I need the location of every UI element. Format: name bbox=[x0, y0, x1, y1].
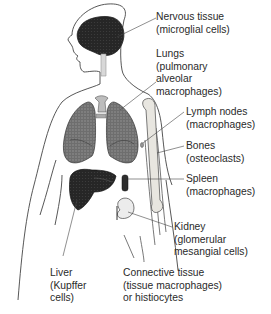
label-line: alveolar bbox=[156, 73, 222, 86]
label-line: Connective tissue bbox=[123, 267, 222, 280]
label-connective-tissue: Connective tissue (tissue macrophages) o… bbox=[123, 267, 222, 305]
label-line: Liver bbox=[50, 267, 86, 280]
right-lung bbox=[106, 102, 138, 163]
label-line: Nervous tissue bbox=[156, 11, 230, 24]
label-line: Lymph nodes bbox=[186, 106, 255, 119]
label-line: (osteoclasts) bbox=[186, 153, 244, 166]
left-arm-inner bbox=[40, 160, 56, 215]
label-line: or histiocytes bbox=[123, 292, 222, 305]
label-line: cells) bbox=[50, 292, 86, 305]
label-line: (macrophages) bbox=[186, 186, 255, 199]
label-bones: Bones (osteoclasts) bbox=[186, 140, 244, 165]
leader-liver bbox=[63, 200, 77, 256]
label-line: mesangial cells) bbox=[174, 246, 248, 259]
label-lungs: Lungs (pulmonary alveolar macrophages) bbox=[156, 48, 222, 98]
label-line: (tissue macrophages) bbox=[123, 280, 222, 293]
label-line: (Kupffer bbox=[50, 280, 86, 293]
label-line: Bones bbox=[186, 140, 244, 153]
label-line: (microglial cells) bbox=[156, 24, 230, 37]
leader-bones bbox=[157, 146, 184, 153]
hip-lines bbox=[124, 235, 144, 262]
heart-area bbox=[96, 114, 106, 118]
liver-icon bbox=[69, 169, 116, 210]
lymph-node-icon bbox=[141, 143, 144, 148]
kidney-icon bbox=[117, 198, 134, 218]
label-liver: Liver (Kupffer cells) bbox=[50, 267, 86, 305]
label-line: Spleen bbox=[186, 173, 255, 186]
label-kidney: Kidney (glomerular mesangial cells) bbox=[174, 221, 248, 259]
label-line: (pulmonary bbox=[156, 61, 222, 74]
label-lymph-nodes: Lymph nodes (macrophages) bbox=[186, 106, 255, 131]
trachea bbox=[95, 96, 108, 112]
label-line: Kidney bbox=[174, 221, 248, 234]
torso-left bbox=[55, 175, 62, 225]
left-lung bbox=[63, 102, 95, 163]
spinal-cord bbox=[101, 54, 106, 76]
label-nervous-tissue: Nervous tissue (microglial cells) bbox=[156, 11, 230, 36]
brain-icon bbox=[77, 16, 124, 55]
label-line: macrophages) bbox=[156, 86, 222, 99]
label-line: (glomerular bbox=[174, 234, 248, 247]
label-line: Lungs bbox=[156, 48, 222, 61]
label-spleen: Spleen (macrophages) bbox=[186, 173, 255, 198]
label-line: (macrophages) bbox=[186, 119, 255, 132]
leader-kidney bbox=[128, 212, 172, 227]
spleen-icon bbox=[122, 175, 128, 191]
